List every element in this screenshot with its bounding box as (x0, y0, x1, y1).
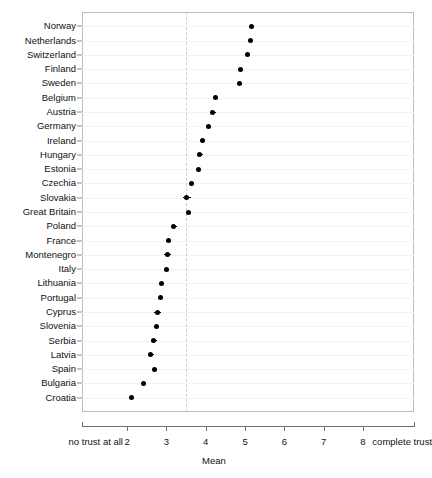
y-axis-tick (77, 40, 82, 41)
y-axis-tick (77, 226, 82, 227)
x-axis-tick (414, 422, 415, 427)
y-axis-label: Norway (44, 22, 76, 32)
data-point (152, 367, 157, 372)
plot-panel (82, 12, 414, 412)
x-axis-tick (82, 422, 83, 427)
y-axis-label: Montenegro (25, 250, 76, 260)
gridline (82, 212, 414, 213)
y-axis-label: Austria (46, 107, 76, 117)
y-axis-label: Bulgaria (41, 379, 76, 389)
y-axis-tick (77, 354, 82, 355)
y-axis-tick (77, 26, 82, 27)
y-axis-tick (77, 340, 82, 341)
gridline (82, 312, 414, 313)
y-axis-tick (77, 312, 82, 313)
gridline (82, 255, 414, 256)
y-axis-tick (77, 126, 82, 127)
y-axis-label: Italy (59, 264, 76, 274)
gridline (82, 241, 414, 242)
data-point (154, 324, 159, 329)
data-point (158, 295, 163, 300)
data-point (245, 52, 250, 57)
data-point (166, 238, 171, 243)
x-axis-tick-label: 3 (164, 436, 169, 447)
y-axis-tick (77, 212, 82, 213)
data-point (206, 124, 211, 129)
x-axis-title: Mean (0, 455, 428, 466)
y-axis-label: Hungary (40, 150, 76, 160)
y-axis-label: Slovenia (40, 322, 76, 332)
data-point (196, 167, 201, 172)
y-axis-tick (77, 297, 82, 298)
y-axis-tick (77, 183, 82, 184)
data-point (129, 395, 134, 400)
data-point (171, 224, 176, 229)
data-point (141, 381, 146, 386)
x-axis (82, 426, 414, 427)
data-point (184, 195, 189, 200)
gridline (82, 326, 414, 327)
y-axis-tick (77, 112, 82, 113)
y-axis-tick (77, 69, 82, 70)
x-axis-anchor-label-high: complete trust (372, 436, 432, 447)
x-axis-tick (127, 426, 128, 431)
data-point (159, 281, 164, 286)
gridline (82, 169, 414, 170)
gridline (82, 83, 414, 84)
y-axis-label: Czechia (42, 179, 76, 189)
y-axis-tick (77, 97, 82, 98)
gridline (82, 298, 414, 299)
x-axis-tick-label: 5 (242, 436, 247, 447)
data-point (200, 138, 205, 143)
y-axis-tick (77, 383, 82, 384)
gridline (82, 269, 414, 270)
y-axis-label: Latvia (51, 350, 76, 360)
gridline (82, 126, 414, 127)
y-axis-label: Spain (52, 364, 76, 374)
y-axis-label: Great Britain (23, 207, 76, 217)
y-axis-label: Serbia (49, 336, 76, 346)
y-axis-tick (77, 254, 82, 255)
y-axis-tick (77, 240, 82, 241)
data-point (186, 210, 191, 215)
gridline (82, 283, 414, 284)
y-axis-label: Netherlands (25, 36, 76, 46)
x-axis-tick (206, 426, 207, 431)
y-axis-label: Belgium (42, 93, 76, 103)
data-point (197, 152, 202, 157)
data-point (189, 181, 194, 186)
x-axis-tick (324, 426, 325, 431)
x-axis-tick (363, 426, 364, 431)
gridline (82, 341, 414, 342)
y-axis-tick (77, 269, 82, 270)
data-point (164, 267, 169, 272)
y-axis-label: Estonia (44, 164, 76, 174)
gridline (82, 226, 414, 227)
gridline (82, 112, 414, 113)
gridline (82, 383, 414, 384)
gridline (82, 155, 414, 156)
y-axis-label: Cyprus (46, 307, 76, 317)
x-axis-tick-label: 6 (282, 436, 287, 447)
data-point (165, 252, 170, 257)
y-axis-label: Ireland (47, 136, 76, 146)
y-axis-label: Switzerland (27, 50, 76, 60)
data-point (213, 95, 218, 100)
x-axis-tick-label: 2 (125, 436, 130, 447)
y-axis-tick (77, 397, 82, 398)
data-point (249, 24, 254, 29)
gridline (82, 355, 414, 356)
y-axis-label: Finland (45, 64, 76, 74)
y-axis-label: Germany (37, 122, 76, 132)
data-point (155, 310, 160, 315)
gridline (82, 98, 414, 99)
y-axis-tick (77, 140, 82, 141)
data-point (210, 110, 215, 115)
data-point (148, 352, 153, 357)
gridline (82, 141, 414, 142)
y-axis-label: Portugal (41, 293, 76, 303)
y-axis-tick (77, 369, 82, 370)
gridline (82, 69, 414, 70)
data-point (248, 38, 253, 43)
